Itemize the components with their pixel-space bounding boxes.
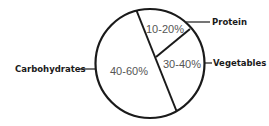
- percent-protein: 10-20%: [146, 23, 184, 35]
- percent-vegetables: 30-40%: [163, 58, 201, 70]
- label-carbohydrates: Carbohydrates: [15, 64, 86, 74]
- pie-chart: Protein Vegetables Carbohydrates 10-20% …: [0, 0, 269, 126]
- label-vegetables: Vegetables: [213, 58, 266, 68]
- percent-carbohydrates: 40-60%: [110, 65, 148, 77]
- label-protein: Protein: [212, 17, 247, 27]
